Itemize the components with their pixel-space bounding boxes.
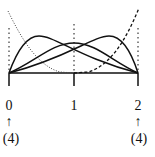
knot-label-2: 2	[135, 98, 142, 113]
multiplicity-label-0: (4)	[3, 131, 20, 147]
dotted-decreasing-basis-curve	[8, 11, 74, 73]
up-arrow-icon: ↑	[6, 114, 13, 129]
up-arrow-icon: ↑	[135, 114, 142, 129]
knot-label-0: 0	[6, 98, 13, 113]
knot-label-1: 1	[71, 98, 78, 113]
b-spline-diagram: 0 1 2 ↑ ↑ (4) (4)	[0, 0, 155, 157]
multiplicity-label-2: (4)	[131, 131, 148, 147]
